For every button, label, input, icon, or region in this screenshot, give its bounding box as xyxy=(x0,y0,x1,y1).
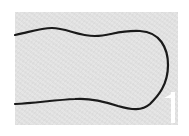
cell-outline xyxy=(0,0,189,136)
scale-bar xyxy=(171,92,175,123)
